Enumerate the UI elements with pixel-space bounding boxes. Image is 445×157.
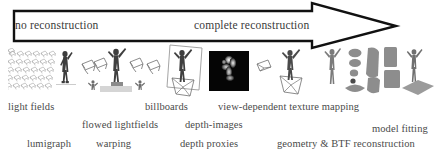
model-fitting-cluster <box>318 44 440 102</box>
depth-image-icon <box>208 50 252 94</box>
depth-image-cluster <box>208 50 252 94</box>
texture-patch-icon <box>318 44 440 102</box>
caption-depth-images: depth-images <box>185 119 243 130</box>
caption-lumigraph: lumigraph <box>27 138 71 149</box>
caption-model-fitting: model fitting <box>372 123 428 134</box>
caption-light-fields: light fields <box>8 101 54 112</box>
light-fields-cluster <box>8 48 80 100</box>
arrow-left-label: no reconstruction <box>15 19 99 31</box>
vdtm-cluster <box>256 46 318 100</box>
caption-geometry-btf-reconstruction: geometry & BTF reconstruction <box>277 138 415 149</box>
caption-flowed-lightfields: flowed lightfields <box>82 119 158 130</box>
actor-figure <box>324 48 341 84</box>
camera-grid-icon <box>8 48 80 100</box>
caption-billboards: billboards <box>145 101 188 112</box>
arrow-right-label: complete reconstruction <box>194 19 309 31</box>
caption-view-dependent-texture-mapping: view-dependent texture mapping <box>218 101 359 112</box>
camera-frustum-icon <box>256 46 318 100</box>
ground-plane <box>402 80 434 95</box>
btf-patch-group <box>345 47 400 93</box>
caption-depth-proxies: depth proxies <box>180 138 238 149</box>
reconstruction-continuum-figure: no reconstruction complete reconstructio… <box>0 0 445 157</box>
caption-warping: warping <box>96 138 131 149</box>
actor-figure <box>60 51 72 83</box>
fitted-model-figure <box>407 49 423 82</box>
